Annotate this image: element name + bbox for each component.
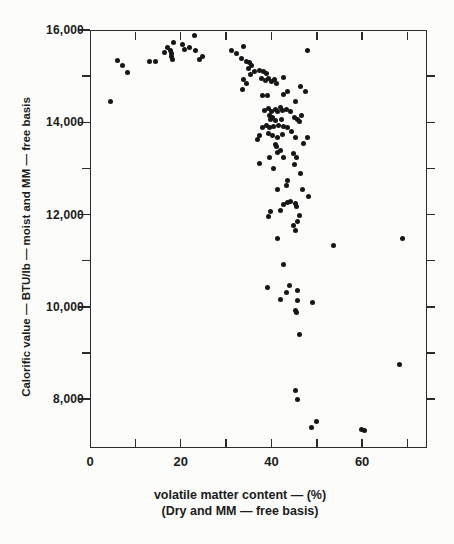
y-right-tick (427, 214, 435, 216)
y-right-tick (427, 75, 435, 77)
x-tick-label: 0 (70, 454, 110, 469)
data-point (294, 310, 299, 315)
data-point (301, 141, 306, 146)
data-point (234, 51, 239, 56)
x-bottom-tick (271, 439, 273, 447)
data-point (240, 87, 245, 92)
data-point (331, 243, 336, 248)
y-right-tick (427, 168, 435, 170)
data-point (309, 425, 314, 430)
data-point (284, 290, 289, 295)
data-point (244, 81, 249, 86)
x-tick-label: 40 (251, 454, 291, 469)
y-minor-tick (82, 75, 90, 77)
data-point (241, 44, 246, 49)
x-bottom-tick (361, 439, 363, 447)
data-point (281, 75, 286, 80)
data-point (170, 57, 175, 62)
data-point (275, 236, 280, 241)
data-point (187, 45, 192, 50)
x-axis-title-line1: volatile matter content — (%) (90, 488, 390, 504)
data-point (397, 362, 402, 367)
y-minor-tick (82, 168, 90, 170)
data-point (275, 187, 280, 192)
x-axis-title: volatile matter content — (%) (Dry and M… (90, 488, 390, 519)
y-tick-label: 10,000 (28, 300, 84, 314)
x-bottom-tick (135, 439, 137, 447)
x-top-tick (225, 32, 227, 40)
plot-area (90, 30, 427, 448)
y-right-tick (427, 306, 435, 308)
data-point (162, 50, 167, 55)
y-tick-label: 8,000 (28, 392, 84, 406)
data-point (281, 92, 286, 97)
x-top-tick (361, 32, 363, 40)
data-point (362, 428, 367, 433)
x-top-tick (180, 32, 182, 40)
scatter-figure: Calorific value — BTU/lb — moist and MM … (0, 0, 454, 544)
y-right-tick (427, 352, 435, 354)
x-tick-label: 20 (161, 454, 201, 469)
y-tick-label: 16,000 (28, 23, 84, 37)
x-bottom-tick (316, 439, 318, 447)
y-right-tick (427, 260, 435, 262)
data-point (278, 297, 283, 302)
data-point (298, 171, 303, 176)
x-top-tick (407, 32, 409, 40)
y-minor-tick (82, 260, 90, 262)
y-right-tick (427, 122, 435, 124)
y-right-tick (427, 398, 435, 400)
x-tick-label: 60 (342, 454, 382, 469)
y-minor-tick (82, 352, 90, 354)
x-axis-title-line2: (Dry and MM — free basis) (90, 504, 390, 520)
data-point (314, 419, 319, 424)
y-tick-label: 12,000 (28, 208, 84, 222)
x-bottom-tick (180, 439, 182, 447)
x-bottom-tick (407, 439, 409, 447)
x-top-tick (271, 32, 273, 40)
data-point (289, 129, 294, 134)
data-point (275, 135, 280, 140)
x-top-tick (316, 32, 318, 40)
x-top-tick (135, 32, 137, 40)
data-point (293, 388, 298, 393)
data-point (120, 63, 125, 68)
data-point (265, 285, 270, 290)
y-tick-label: 14,000 (28, 115, 84, 129)
data-point (274, 81, 279, 86)
x-bottom-tick (225, 439, 227, 447)
data-point (400, 236, 405, 241)
